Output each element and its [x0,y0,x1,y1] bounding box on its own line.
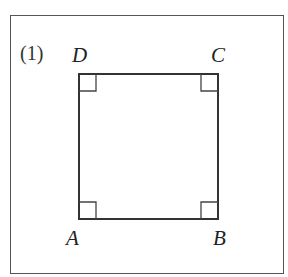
right-angle-marker-c [201,74,218,91]
vertex-label-a: A [66,228,79,249]
vertex-label-b: B [213,228,226,249]
right-angle-marker-d [79,74,96,91]
square-figure [0,0,288,277]
square-abcd [79,74,218,219]
right-angle-marker-b [201,202,218,219]
right-angle-marker-a [79,202,96,219]
vertex-label-d: D [72,45,87,66]
vertex-label-c: C [211,45,225,66]
